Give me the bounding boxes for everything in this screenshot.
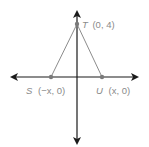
label-U-coords: (x, 0) (109, 85, 131, 96)
point-U (100, 75, 104, 79)
segment-TU (77, 24, 102, 77)
label-S: S (−x, 0) (26, 85, 65, 96)
point-S (49, 75, 53, 79)
label-T-name: T (82, 19, 89, 30)
label-T-coords: (0, 4) (92, 19, 114, 30)
label-S-name: S (26, 85, 33, 96)
coordinate-diagram: T (0, 4) S (−x, 0) U (x, 0) (0, 0, 149, 147)
label-T: T (0, 4) (82, 19, 115, 30)
label-U: U (x, 0) (96, 85, 130, 96)
point-T (75, 22, 79, 26)
segment-ST (51, 24, 77, 77)
label-S-coords: (−x, 0) (38, 85, 65, 96)
label-U-name: U (96, 85, 103, 96)
